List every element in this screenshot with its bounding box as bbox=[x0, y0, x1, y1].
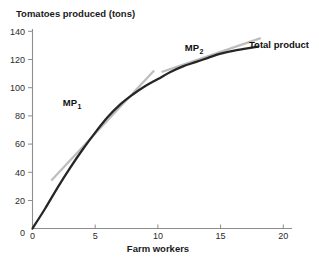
y-axis-title: Tomatoes produced (tons) bbox=[16, 8, 135, 19]
y-tick-label: 20 bbox=[15, 196, 25, 206]
total-product-chart: Tomatoes produced (tons) 140 120 100 80 … bbox=[0, 0, 319, 265]
y-tick-label: 120 bbox=[10, 55, 25, 65]
y-axis-ticks bbox=[28, 31, 33, 200]
x-axis-ticks bbox=[95, 225, 283, 229]
mp2-subscript: 2 bbox=[200, 48, 204, 55]
mp2-label: MP bbox=[185, 42, 200, 53]
y-tick-label: 140 bbox=[10, 27, 25, 37]
mp1-subscript: 1 bbox=[78, 103, 82, 110]
y-tick-label: 80 bbox=[15, 111, 25, 121]
y-tick-label: 0 bbox=[20, 228, 25, 238]
mp1-annotation: MP 1 bbox=[63, 97, 82, 110]
mp2-tangent-line bbox=[162, 38, 261, 72]
x-tick-label: 5 bbox=[93, 231, 98, 241]
y-tick-label: 60 bbox=[15, 139, 25, 149]
x-tick-label: 0 bbox=[30, 231, 35, 241]
x-axis-tick-labels: 0 5 10 15 20 bbox=[30, 231, 288, 241]
mp1-tangent-line bbox=[51, 71, 154, 181]
mp2-annotation: MP 2 bbox=[185, 42, 204, 55]
total-product-label: Total product bbox=[249, 39, 310, 50]
mp1-label: MP bbox=[63, 97, 78, 108]
total-product-curve bbox=[33, 47, 259, 229]
y-tick-label: 100 bbox=[10, 83, 25, 93]
chart-canvas: Tomatoes produced (tons) 140 120 100 80 … bbox=[0, 0, 319, 265]
x-tick-label: 15 bbox=[216, 231, 226, 241]
x-axis-title: Farm workers bbox=[127, 243, 189, 254]
x-tick-label: 20 bbox=[278, 231, 288, 241]
y-axis-tick-labels: 140 120 100 80 60 40 20 0 bbox=[10, 27, 25, 238]
y-tick-label: 40 bbox=[15, 168, 25, 178]
x-tick-label: 10 bbox=[153, 231, 163, 241]
